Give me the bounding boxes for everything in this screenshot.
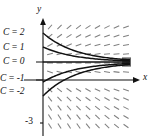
slope-dash [95,97,100,100]
slope-dash [57,97,61,101]
slope-dash [123,26,129,28]
slope-dash [104,44,110,45]
slope-dash [57,71,63,73]
slope-dash [85,89,90,92]
slope-dash [57,34,62,38]
slope-dash [123,54,129,55]
slope-dash [114,98,119,101]
slope-dash [104,72,110,73]
curve-label-c2: C = 2 [3,27,24,37]
slope-dash [104,98,109,101]
slope-dash [66,44,72,46]
curve-label-cm2: C = -2 [0,86,24,96]
slope-dash [67,115,71,120]
slope-dash [123,89,129,91]
x-axis-arrowhead [133,77,140,83]
slope-dash [114,72,120,73]
slope-dash [95,124,99,128]
slope-dash [58,106,62,111]
slope-dash [76,25,81,29]
slope-field-dashes [47,25,129,129]
slope-dash [104,26,109,29]
slope-dash [95,115,99,119]
slope-dash [95,89,100,92]
axes-group [24,18,140,136]
slope-dash [48,123,51,128]
slope-dash [57,88,62,92]
slope-dash [114,115,119,118]
slope-dash [123,115,128,118]
slope-dash [67,25,72,29]
slope-dash [76,106,80,110]
curve-label-c1: C = 1 [3,42,24,52]
slope-dash [58,123,61,128]
slope-dash [105,124,109,128]
slope-dash [114,106,119,109]
slope-dash [114,35,120,37]
slope-dash [67,123,70,128]
slope-dash [114,89,120,91]
y-tick-label-minus3: -3 [25,116,33,126]
slope-dash [86,124,90,129]
slope-dash [67,106,71,111]
label-leader-lines [36,62,43,80]
curve-label-c0: C = 0 [3,56,24,66]
slope-dash [104,89,110,91]
slope-dash [86,25,91,28]
slope-dash [104,54,110,55]
y-axis-label: y [37,4,41,14]
slope-dash [76,88,81,91]
slope-dash [86,106,91,110]
slope-dash [114,26,119,28]
slope-dash [95,106,100,110]
plot-canvas [0,0,155,139]
slope-dash [85,35,90,38]
slope-dash [86,115,90,119]
slope-dash [95,35,101,37]
slope-dash [123,98,129,100]
slope-dash [77,124,80,129]
slope-dash [85,44,91,46]
slope-dash [86,97,91,100]
slope-dash [95,72,101,73]
slope-dash [95,44,101,46]
slope-dash [48,106,51,111]
slope-dash [67,88,72,91]
slope-dash [76,97,81,101]
x-axis-label: x [143,72,147,82]
slope-field-figure: C = 2 C = 1 C = 0 C = -1 C = -2 y x -3 [0,0,155,139]
slope-dash [66,34,71,37]
solution-curves-group [43,33,131,96]
slope-dash [47,53,53,55]
slope-dash [104,35,110,37]
slope-dash [123,35,129,37]
slope-dash [47,44,52,47]
slope-dash [114,124,119,128]
slope-dash [114,54,120,55]
slope-dash [48,25,52,30]
y-axis-arrowhead [40,18,46,25]
slope-dash [105,106,110,109]
slope-dash [77,115,81,120]
slope-dash [76,53,82,54]
slope-dash [123,72,129,73]
slope-dash [105,115,110,119]
slope-dash [123,44,129,45]
slope-dash [48,97,52,102]
slope-dash [48,114,51,119]
slope-dash [123,107,128,110]
slope-dash [57,25,61,29]
slope-dash [67,97,71,101]
slope-dash [95,54,101,55]
slope-dash [47,71,53,73]
slope-dash [95,25,100,28]
slope-dash [124,124,129,127]
slope-dash [76,35,81,38]
slope-dash [58,114,61,119]
curve-label-cm1: C = -1 [0,73,24,83]
slope-dash [114,44,120,45]
slope-dash [76,44,82,46]
